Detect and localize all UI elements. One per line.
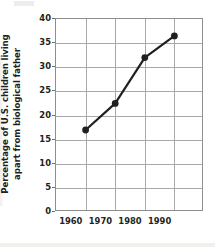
y-axis-tick-label: 5 [17, 182, 51, 192]
y-axis-tick-label: 40 [17, 13, 51, 23]
plot-area [55, 18, 203, 211]
y-axis-tick-label: 0 [17, 206, 51, 216]
y-axis-tick-mark [52, 211, 55, 212]
y-axis-tick-label: 25 [17, 85, 51, 95]
chart-figure: Percentage of U.S. children living apart… [0, 0, 215, 249]
data-point-marker [82, 127, 89, 134]
data-series-line [56, 19, 204, 212]
y-axis-tick-label: 30 [17, 61, 51, 71]
y-axis-tick-label: 10 [17, 158, 51, 168]
x-axis-tick-label: 1990 [137, 216, 183, 226]
data-point-marker [171, 32, 178, 39]
series-polyline [86, 36, 175, 130]
y-axis-tick-label: 20 [17, 110, 51, 120]
y-axis-tick-label: 35 [17, 37, 51, 47]
y-axis-tick-label: 15 [17, 134, 51, 144]
data-point-marker [112, 100, 119, 107]
scan-artifact-bottom [0, 243, 215, 247]
data-point-marker [141, 54, 148, 61]
y-axis-title-line-1: Percentage of U.S. children living [0, 34, 10, 193]
